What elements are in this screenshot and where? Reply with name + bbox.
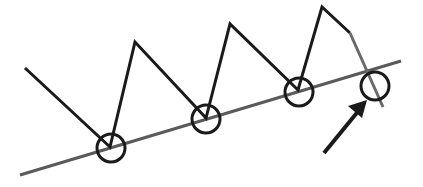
touch-point-circles bbox=[97, 72, 389, 162]
arrow-head bbox=[348, 100, 367, 118]
trendline-diagram bbox=[0, 0, 423, 187]
arrow-icon bbox=[324, 100, 367, 153]
arrow-shaft bbox=[324, 109, 360, 153]
